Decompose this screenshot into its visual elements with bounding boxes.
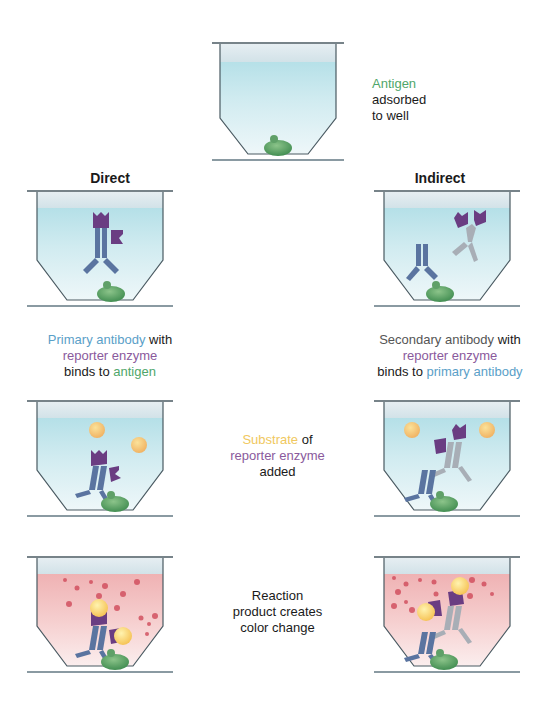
substrate-icon — [89, 422, 105, 438]
step2-indirect-label: Secondary antibody with reporter enzyme … — [355, 332, 545, 380]
substrate-icon — [404, 422, 420, 438]
well-direct-color-change — [25, 554, 175, 684]
step2-direct-label: Primary antibody with reporter enzyme bi… — [20, 332, 200, 380]
well-indirect-color-change — [372, 554, 522, 684]
direct-heading: Direct — [60, 170, 160, 186]
well-direct-binding — [25, 188, 175, 318]
substrate-icon — [451, 577, 469, 595]
substrate-icon — [131, 437, 147, 453]
step4-label: Reaction product creates color change — [205, 588, 350, 636]
substrate-icon — [417, 603, 435, 621]
substrate-icon — [90, 599, 108, 617]
well-antigen-adsorbed — [210, 36, 346, 164]
substrate-icon — [479, 422, 495, 438]
step1-label: Antigen adsorbed to well — [372, 76, 426, 124]
well-indirect-substrate — [372, 398, 522, 528]
indirect-heading: Indirect — [390, 170, 490, 186]
well-direct-substrate — [25, 398, 175, 528]
well-indirect-binding — [372, 188, 522, 318]
step3-label: Substrate of reporter enzyme added — [205, 432, 350, 480]
substrate-icon — [114, 627, 132, 645]
